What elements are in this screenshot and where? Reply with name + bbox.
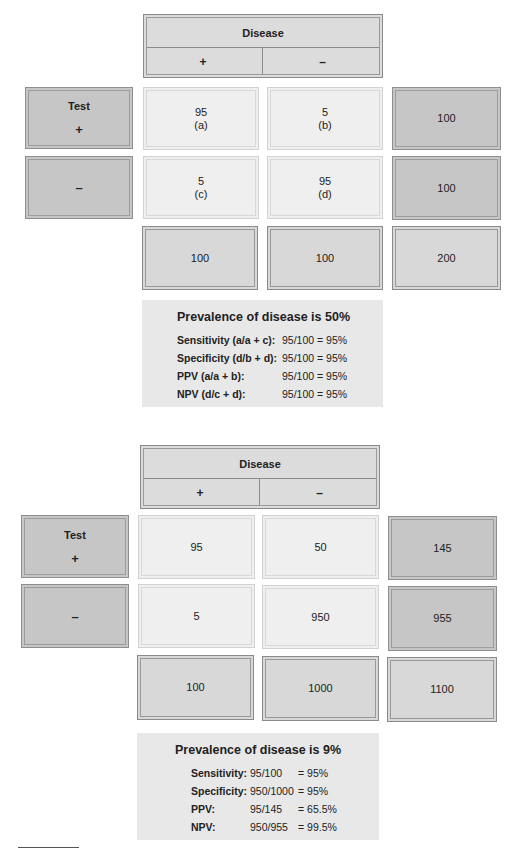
stat-specificity-result: = 95% <box>298 785 328 797</box>
cell-a-value: 95 <box>190 541 202 554</box>
prevalence-title: Prevalence of disease is 50% <box>177 310 350 324</box>
row-total-negative: 100 <box>392 156 501 220</box>
disease-negative-label: – <box>263 55 382 69</box>
stat-sensitivity-result: = 95% <box>298 767 328 779</box>
grand-total-value: 200 <box>437 252 455 265</box>
stat-ppv-fraction: 95/145 <box>250 803 282 815</box>
stat-ppv-result: = 65.5% <box>298 803 337 815</box>
row-total-value: 145 <box>433 542 451 555</box>
stat-sensitivity: Sensitivity: <box>191 767 247 779</box>
disease-title: Disease <box>144 27 382 39</box>
row-total-positive: 145 <box>388 516 497 580</box>
cell-c-value: 5 <box>193 610 199 623</box>
disease-header-1: Disease + – <box>143 14 383 78</box>
test-positive-sign: + <box>71 552 79 565</box>
test-positive-label-cell: Test + <box>25 87 133 149</box>
cell-b-value: 5 <box>322 106 328 119</box>
header-divider <box>144 478 376 479</box>
disease-title: Disease <box>141 458 379 470</box>
column-total-negative: 1000 <box>262 656 379 721</box>
stat-npv-value: 95/100 = 95% <box>282 388 347 400</box>
disease-negative-label: – <box>260 486 379 500</box>
footnote-rule <box>18 847 79 848</box>
stat-label: PPV: <box>191 803 215 815</box>
test-negative-label-cell: – <box>25 156 133 219</box>
header-divider <box>147 47 379 48</box>
cell-d-value: 95 <box>319 175 331 188</box>
stat-specificity-value: 95/100 = 95% <box>282 352 347 364</box>
cell-d-value: 950 <box>311 611 329 624</box>
cell-a: 95 <box>138 515 255 579</box>
stat-label: NPV: <box>191 821 216 833</box>
column-total-value: 100 <box>191 252 209 265</box>
column-total-value: 100 <box>316 252 334 265</box>
cell-b-value: 50 <box>314 541 326 554</box>
stats-panel-1: Prevalence of disease is 50% Sensitivity… <box>142 300 383 407</box>
test-positive-label-cell: Test + <box>21 515 129 578</box>
stat-ppv-value: 95/100 = 95% <box>282 370 347 382</box>
row-total-positive: 100 <box>392 87 501 150</box>
stat-sensitivity-fraction: 95/100 <box>250 767 282 779</box>
cell-b: 50 <box>262 515 379 579</box>
stat-sensitivity: Sensitivity (a/a + c): <box>177 334 275 346</box>
stat-label: Specificity: <box>191 785 247 797</box>
stat-label: Sensitivity (a/a + c): <box>177 334 275 346</box>
test-label: Test <box>68 100 90 113</box>
row-total-value: 100 <box>437 182 455 195</box>
grand-total-value: 1100 <box>430 683 454 696</box>
disease-header-2: Disease + – <box>140 445 380 509</box>
cell-d: 950 <box>262 585 379 649</box>
cell-a-value: 95 <box>195 106 207 119</box>
column-total-value: 1000 <box>308 682 332 695</box>
column-total-value: 100 <box>186 681 204 694</box>
grand-total: 1100 <box>387 657 497 722</box>
cell-b-tag: (b) <box>318 119 331 132</box>
cell-c-value: 5 <box>198 175 204 188</box>
stat-sensitivity-value: 95/100 = 95% <box>282 334 347 346</box>
grand-total: 200 <box>392 226 501 290</box>
column-total-negative: 100 <box>267 226 383 290</box>
column-total-positive: 100 <box>142 226 258 290</box>
stat-ppv: PPV (a/a + b): <box>177 370 244 382</box>
column-total-positive: 100 <box>137 655 254 720</box>
cell-d-tag: (d) <box>318 188 331 201</box>
test-negative-label-cell: – <box>21 584 129 648</box>
prevalence-title: Prevalence of disease is 9% <box>175 743 341 757</box>
stat-specificity-fraction: 950/1000 <box>250 785 294 797</box>
stat-label: NPV (d/c + d): <box>177 388 246 400</box>
stat-specificity: Specificity: <box>191 785 247 797</box>
stat-ppv: PPV: <box>191 803 215 815</box>
stat-label: Specificity (d/b + d): <box>177 352 277 364</box>
test-negative-sign: – <box>75 181 82 194</box>
row-total-value: 100 <box>437 112 455 125</box>
stat-npv: NPV (d/c + d): <box>177 388 246 400</box>
stat-label: Sensitivity: <box>191 767 247 779</box>
cell-b: 5 (b) <box>267 87 383 150</box>
row-total-value: 955 <box>433 612 451 625</box>
stat-specificity: Specificity (d/b + d): <box>177 352 277 364</box>
stat-npv-result: = 99.5% <box>298 821 337 833</box>
stats-panel-2: Prevalence of disease is 9% Sensitivity:… <box>137 733 379 840</box>
test-label: Test <box>64 529 86 542</box>
test-positive-sign: + <box>75 123 83 136</box>
stat-npv-fraction: 950/955 <box>250 821 288 833</box>
stat-npv: NPV: <box>191 821 216 833</box>
cell-c-tag: (c) <box>195 188 208 201</box>
disease-positive-label: + <box>144 55 262 69</box>
cell-d: 95 (d) <box>267 156 383 219</box>
row-total-negative: 955 <box>388 586 497 651</box>
cell-c: 5 (c) <box>143 156 259 219</box>
disease-positive-label: + <box>141 486 259 500</box>
cell-a-tag: (a) <box>194 119 207 132</box>
test-negative-sign: – <box>71 610 78 623</box>
cell-c: 5 <box>138 584 255 648</box>
cell-a: 95 (a) <box>143 87 259 150</box>
stat-label: PPV (a/a + b): <box>177 370 244 382</box>
